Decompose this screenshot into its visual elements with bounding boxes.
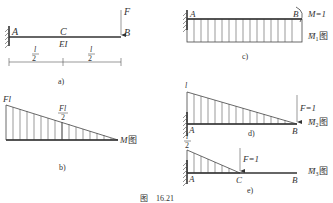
svg-text:2: 2 [88, 54, 92, 63]
panel-e-label: e) [247, 186, 254, 195]
mid-moment-num: Fl [58, 104, 67, 113]
point-a-label: A [11, 26, 19, 37]
stiffness-label: EI [58, 39, 68, 49]
unit-moment-label: M=1 [307, 9, 326, 19]
svg-text:l: l [90, 45, 93, 54]
svg-text:2: 2 [32, 54, 36, 63]
diagram-name: M图 [119, 135, 137, 145]
panel-d-unit-load-at-b: l F=1 A B M̄2图 d) [183, 81, 328, 138]
panel-d-label: d) [248, 129, 255, 138]
panel-c-unit-moment: A B M=1 M̄1图 c) [183, 7, 328, 61]
figure-caption: 图16.21 [140, 194, 174, 203]
svg-text:2: 2 [185, 141, 189, 150]
mid-moment-den: 2 [61, 113, 65, 122]
panel-a-cantilever-beam: F A C B EI l 2 l 2 a) [5, 6, 131, 86]
panel-e-unit-load-at-c: l 2 F=1 A C B M̄3图 e) [183, 132, 328, 195]
point-c-label: C [60, 26, 67, 37]
point-b-label: B [124, 27, 130, 38]
panel-b-moment-diagram: Fl Fl 2 M图 b) [2, 94, 137, 172]
figure-16-21: F A C B EI l 2 l 2 a) Fl [0, 0, 333, 203]
max-moment-label: Fl [2, 94, 11, 104]
point-a-label: A [189, 9, 196, 19]
point-a-label: A [188, 174, 195, 184]
unit-load-label: F=1 [299, 103, 316, 113]
panel-c-label: c) [242, 52, 249, 61]
point-b-label: B [292, 175, 298, 185]
panel-a-label: a) [58, 77, 65, 86]
point-b-label: B [293, 9, 299, 19]
diagram-name: M̄2图 [307, 117, 328, 128]
max-moment-label: l [185, 81, 188, 90]
svg-text:l: l [34, 45, 37, 54]
fixed-support-icon [183, 10, 187, 32]
fixed-support-icon [5, 26, 9, 48]
diagram-name: M̄1图 [307, 31, 328, 42]
moment-hatch [194, 94, 285, 124]
moment-hatch [194, 153, 229, 173]
point-b-label: B [292, 126, 298, 136]
unit-load-label: F=1 [242, 154, 259, 164]
panel-b-label: b) [59, 163, 66, 172]
load-label: F [123, 6, 131, 17]
point-c-label: C [236, 175, 243, 185]
diagram-name: M̄3图 [307, 166, 328, 177]
moment-hatch [194, 19, 292, 42]
point-a-label: A [188, 125, 195, 135]
fixed-support-icon [183, 160, 187, 186]
